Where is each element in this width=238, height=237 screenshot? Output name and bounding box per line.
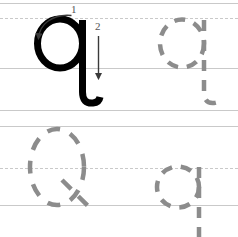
stroke-arrows-layer bbox=[0, 0, 238, 237]
stroke-number-1: 1 bbox=[71, 4, 77, 15]
worksheet-page: 1 2 bbox=[0, 0, 238, 237]
arrow-1-curve bbox=[39, 15, 72, 38]
stroke-number-2: 2 bbox=[95, 21, 101, 32]
